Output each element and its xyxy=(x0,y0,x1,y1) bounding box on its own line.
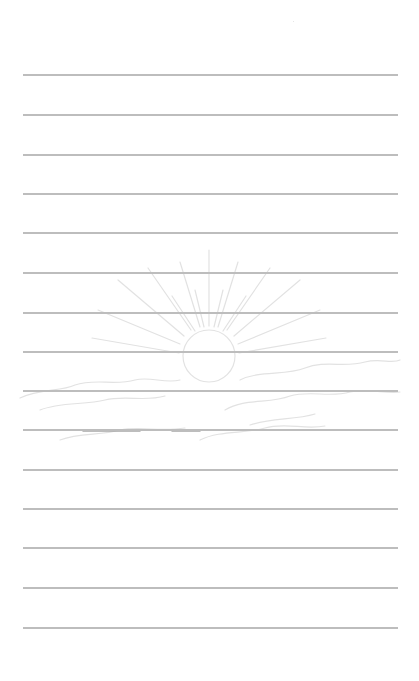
notebook-rule-line xyxy=(23,272,398,274)
notebook-rule-line xyxy=(23,232,398,234)
sun-icon xyxy=(183,330,235,382)
notebook-rule-line xyxy=(23,114,398,116)
notebook-rule-line xyxy=(23,627,398,629)
notebook-rule-line xyxy=(23,469,398,471)
paper-speck xyxy=(293,21,294,22)
notebook-page xyxy=(0,0,419,681)
notebook-rule-line xyxy=(23,193,398,195)
notebook-rule-line xyxy=(23,312,398,314)
notebook-rule-line xyxy=(23,74,398,76)
notebook-rule-line xyxy=(23,429,398,431)
notebook-rule-line xyxy=(23,547,398,549)
sunrise-watermark-icon xyxy=(0,0,419,681)
notebook-rule-line xyxy=(23,390,398,392)
notebook-rule-line xyxy=(23,154,398,156)
notebook-rule-line xyxy=(23,508,398,510)
notebook-rule-line xyxy=(23,587,398,589)
notebook-rule-line xyxy=(23,351,398,353)
